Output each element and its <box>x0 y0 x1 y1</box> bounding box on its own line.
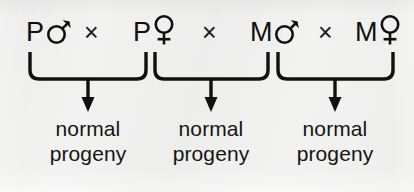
progeny-line-2: progeny <box>28 141 148 166</box>
parent-strain-label: P <box>133 19 152 46</box>
parent-strain-label: M <box>250 19 273 46</box>
cross-row: P × P × <box>0 0 414 58</box>
progeny-line-2: progeny <box>151 141 271 166</box>
cross-symbol: × <box>84 20 99 45</box>
cross-operator-2: × <box>202 12 217 52</box>
genetic-cross-figure: P × P × <box>0 0 414 192</box>
parent-strain-label: M <box>355 19 378 46</box>
arrow-head-1 <box>82 97 95 112</box>
male-symbol <box>46 14 72 50</box>
cross-symbol: × <box>202 20 217 45</box>
progeny-label-3: normal progeny <box>275 116 395 166</box>
female-symbol <box>153 13 175 51</box>
progeny-line-1: normal <box>151 116 271 141</box>
cross-symbol: × <box>318 20 333 45</box>
arrow-head-2 <box>205 97 218 112</box>
progeny-line-1: normal <box>275 116 395 141</box>
progeny-line-1: normal <box>28 116 148 141</box>
arrow-head-3 <box>329 97 342 112</box>
progeny-line-2: progeny <box>275 141 395 166</box>
progeny-label-1: normal progeny <box>28 116 148 166</box>
female-symbol <box>379 13 401 51</box>
parent-token-4: M <box>355 12 401 52</box>
cross-operator-3: × <box>318 12 333 52</box>
parent-token-1: P <box>26 12 72 52</box>
progeny-label-2: normal progeny <box>151 116 271 166</box>
male-symbol <box>274 14 300 50</box>
cross-operator-1: × <box>84 12 99 52</box>
parent-token-2: P <box>133 12 175 52</box>
parent-strain-label: P <box>26 19 45 46</box>
parent-token-3: M <box>250 12 300 52</box>
